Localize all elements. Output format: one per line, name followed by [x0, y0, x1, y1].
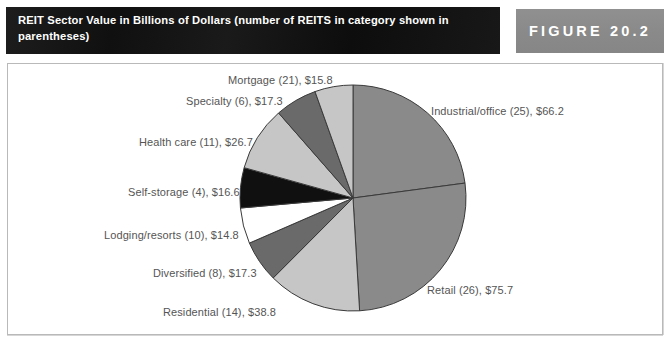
figure-number-box: FIGURE 20.2 [516, 9, 664, 53]
figure-title-bar: REIT Sector Value in Billions of Dollars… [6, 7, 500, 54]
figure-number-label: FIGURE 20.2 [529, 23, 651, 39]
chart-frame [7, 63, 663, 335]
page-title: REIT Sector Value in Billions of Dollars… [18, 13, 486, 44]
figure-header: REIT Sector Value in Billions of Dollars… [0, 0, 670, 60]
